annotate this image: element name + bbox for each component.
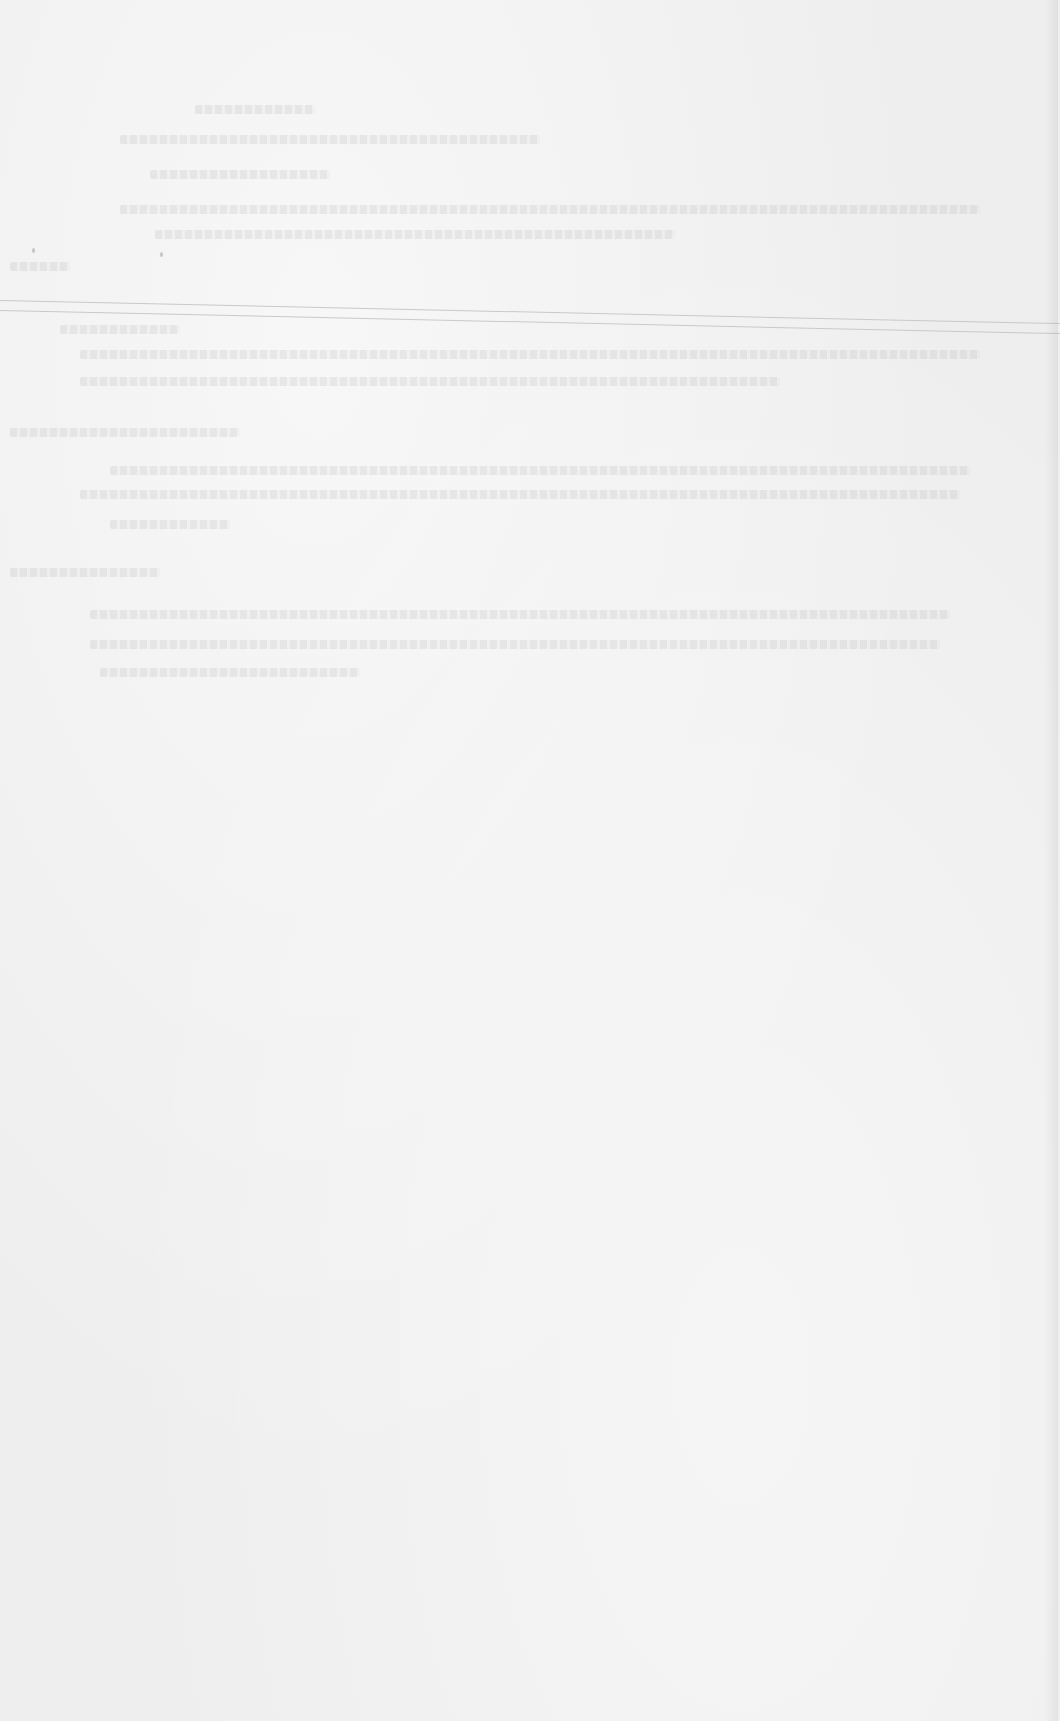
ghost-text-line bbox=[80, 377, 780, 386]
ghost-text-line bbox=[195, 105, 315, 114]
ghost-text-line bbox=[120, 135, 540, 144]
ghost-text-line bbox=[90, 610, 950, 619]
ghost-text-line bbox=[155, 230, 675, 239]
ghost-text-line bbox=[100, 668, 360, 677]
ghost-text-line bbox=[10, 262, 70, 271]
page-edge-shadow bbox=[1044, 0, 1058, 1721]
ghost-text-line bbox=[80, 350, 980, 359]
ghost-text-line bbox=[90, 640, 940, 649]
ghost-text-line bbox=[60, 325, 180, 334]
ghost-text-line bbox=[110, 520, 230, 529]
ghost-text-line bbox=[150, 170, 330, 179]
paper-speck bbox=[160, 252, 163, 257]
ghost-text-line bbox=[10, 428, 240, 437]
double-rule-top bbox=[0, 300, 1060, 324]
ghost-text-line bbox=[110, 466, 970, 475]
paper-speck bbox=[32, 248, 35, 253]
ghost-text-line bbox=[10, 568, 160, 577]
ghost-text-line bbox=[120, 205, 980, 214]
ghost-text-line bbox=[80, 490, 960, 499]
